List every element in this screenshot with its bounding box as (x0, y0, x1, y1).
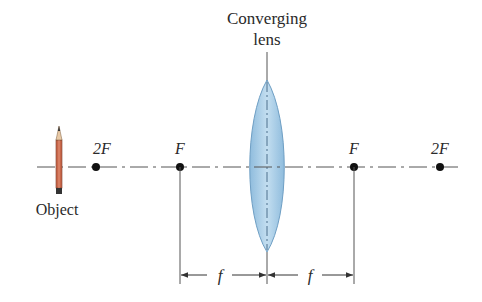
lens-label-line1: Converging (227, 9, 307, 28)
converging-lens-diagram: Converging lens Object 2F F F 2F (0, 0, 482, 302)
point-2F-right: 2F (431, 140, 449, 171)
converging-lens (250, 80, 285, 252)
point-F-right: F (348, 140, 359, 171)
point-F-left: F (174, 140, 185, 171)
lens-label-line2: lens (253, 30, 280, 49)
object-label: Object (36, 201, 79, 219)
point-label-2F-left: 2F (93, 140, 111, 157)
point-2F-left: 2F (92, 140, 111, 171)
point-label-2F-right: 2F (431, 140, 449, 157)
point-label-F-right: F (348, 140, 359, 157)
focal-length-right: f (268, 266, 353, 285)
focal-length-label-left: f (218, 266, 225, 285)
focal-length-left: f (181, 266, 266, 285)
point-label-F-left: F (174, 140, 185, 157)
focal-length-label-right: f (308, 266, 315, 285)
pencil-object-icon (56, 126, 62, 194)
